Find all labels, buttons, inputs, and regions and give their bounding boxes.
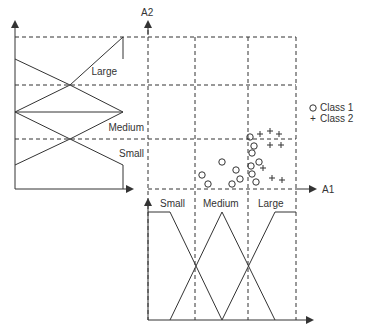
class1-point <box>199 172 205 178</box>
class1-point <box>256 159 262 165</box>
a2-large-label: Large <box>91 66 117 77</box>
class2-point <box>279 177 285 183</box>
a2-membership-functions <box>15 22 132 189</box>
legend-class2: Class 2 <box>320 113 354 124</box>
class2-marker-icon: + <box>310 113 316 124</box>
class2-point <box>269 175 275 181</box>
a1-membership-functions <box>148 200 312 320</box>
class2-point <box>267 142 273 148</box>
fuzzy-grid-diagram: A2 A1 Large Medium Small Small Medium La… <box>0 0 367 335</box>
class2-point <box>257 131 263 137</box>
class1-point <box>219 159 225 165</box>
class1-point <box>237 176 243 182</box>
legend-class1: Class 1 <box>320 102 354 113</box>
a1-axis-label: A1 <box>322 184 335 195</box>
a2-axis-label: A2 <box>141 7 154 18</box>
a2-medium-label: Medium <box>108 122 144 133</box>
a1-large-label: Large <box>258 198 284 209</box>
legend: Class 1 + Class 2 <box>310 102 354 124</box>
class1-marker-icon <box>310 105 316 111</box>
a2-small-label: Small <box>119 148 144 159</box>
class1-point <box>249 171 255 177</box>
class1-point <box>248 163 254 169</box>
class1-point <box>253 179 259 185</box>
class1-point <box>249 150 255 156</box>
class2-point <box>267 128 273 134</box>
class2-point <box>278 142 284 148</box>
class2-point <box>276 131 282 137</box>
a1-small-label: Small <box>160 198 185 209</box>
class1-point <box>229 181 235 187</box>
class1-point <box>251 143 257 149</box>
a1-medium-label: Medium <box>203 198 239 209</box>
class2-point <box>260 165 266 171</box>
class1-point <box>205 181 211 187</box>
data-points <box>199 128 285 187</box>
class1-point <box>233 167 239 173</box>
